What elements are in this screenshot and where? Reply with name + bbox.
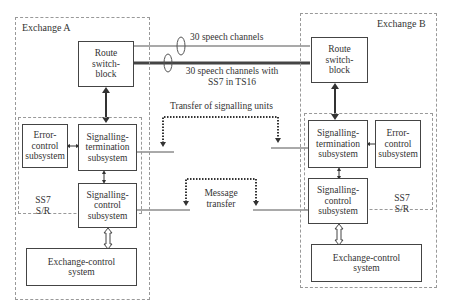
exchange-a-title: Exchange A [22,22,71,33]
exchange-b-exchange-control-system: Exchange-controlsystem [311,244,422,282]
exchange-a-error-control-subsystem: Error-controlsubsystem [22,124,68,168]
exchange-b-signalling-control-subsystem: Signalling-controlsubsystem [308,178,368,224]
exchange-a-ss7-label: SS7S/R [30,195,56,216]
exchange-a-signalling-termination-subsystem: Signalling-terminationsubsystem [78,124,137,171]
message-transfer-label: Messagetransfer [198,188,244,209]
exchange-b-title: Exchange B [377,18,426,29]
speech-channels-ss7-label: 30 speech channels withSS7 in TS16 [172,66,292,87]
exchange-b-error-control-subsystem: Error-controlsubsystem [375,120,421,168]
exchange-b-ss7-label: SS7S/R [389,193,415,214]
transfer-signalling-units-label: Transfer of signalling units [170,101,273,111]
speech-channels-label: 30 speech channels [190,32,263,42]
exchange-b-signalling-termination-subsystem: Signalling-terminationsubsystem [308,120,368,168]
exchange-a-exchange-control-system: Exchange-controlsystem [26,248,137,286]
exchange-a-route-switch-block: Routeswitch-block [78,41,134,87]
exchange-a-signalling-control-subsystem: Signalling-controlsubsystem [78,183,137,228]
exchange-b-route-switch-block: Routeswitch-block [311,37,368,83]
